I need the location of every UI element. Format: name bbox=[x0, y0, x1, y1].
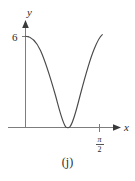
y-axis-arrow-icon bbox=[22, 20, 29, 28]
figure-caption: (j) bbox=[0, 155, 135, 169]
y-axis-label: y bbox=[26, 6, 32, 18]
figure-container: y x 6 π 2 (j) bbox=[0, 0, 135, 181]
fraction-numerator-pi: π bbox=[97, 135, 102, 144]
function-curve bbox=[26, 35, 103, 128]
x-axis-label: x bbox=[123, 121, 129, 133]
x-tick-label-pi-over-2: π 2 bbox=[96, 135, 104, 154]
fraction-denominator-2: 2 bbox=[98, 145, 102, 154]
y-tick-label-6: 6 bbox=[12, 31, 18, 43]
x-axis-arrow-icon bbox=[113, 124, 121, 131]
graph-plot: y x 6 π 2 bbox=[0, 0, 135, 181]
